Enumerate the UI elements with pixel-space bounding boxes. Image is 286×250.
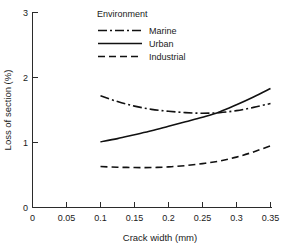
series-line-industrial: [101, 146, 271, 168]
x-tick-label-6: 0.3: [230, 213, 243, 223]
x-tick-label-0: 0: [30, 213, 35, 223]
x-tick-label-2: 0.1: [94, 213, 107, 223]
x-tick-label-1: 0.05: [58, 213, 76, 223]
legend-title: Environment: [97, 9, 148, 19]
y-tick-label-1: 1: [23, 138, 28, 148]
x-tick-label-4: 0.2: [162, 213, 175, 223]
y-tick-label-3: 3: [23, 8, 28, 18]
x-tick-label-7: 0.35: [262, 213, 280, 223]
chart-container: 3 2 1 0 0 0.05 0.1 0.15 0.2 0.25 0.3 0.3…: [0, 0, 286, 250]
series-line-marine: [101, 96, 271, 114]
series-group: [101, 89, 271, 168]
y-tick-label-2: 2: [23, 73, 28, 83]
x-tick-label-3: 0.15: [126, 213, 144, 223]
series-line-urban: [101, 89, 271, 142]
y-tick-label-0: 0: [23, 203, 28, 213]
legend-label-industrial: Industrial: [149, 52, 186, 62]
line-chart: 3 2 1 0 0 0.05 0.1 0.15 0.2 0.25 0.3 0.3…: [0, 0, 286, 250]
x-axis-title: Crack width (mm): [123, 232, 197, 243]
x-tick-label-5: 0.25: [194, 213, 212, 223]
y-axis-title: Loss of section (%): [2, 70, 13, 151]
y-axis-ticks: 3 2 1 0: [23, 8, 38, 213]
x-axis-ticks: 0 0.05 0.1 0.15 0.2 0.25 0.3 0.35: [30, 202, 279, 223]
legend-label-marine: Marine: [149, 26, 177, 36]
legend: Environment Marine Urban Industrial: [97, 9, 186, 62]
legend-label-urban: Urban: [149, 39, 174, 49]
